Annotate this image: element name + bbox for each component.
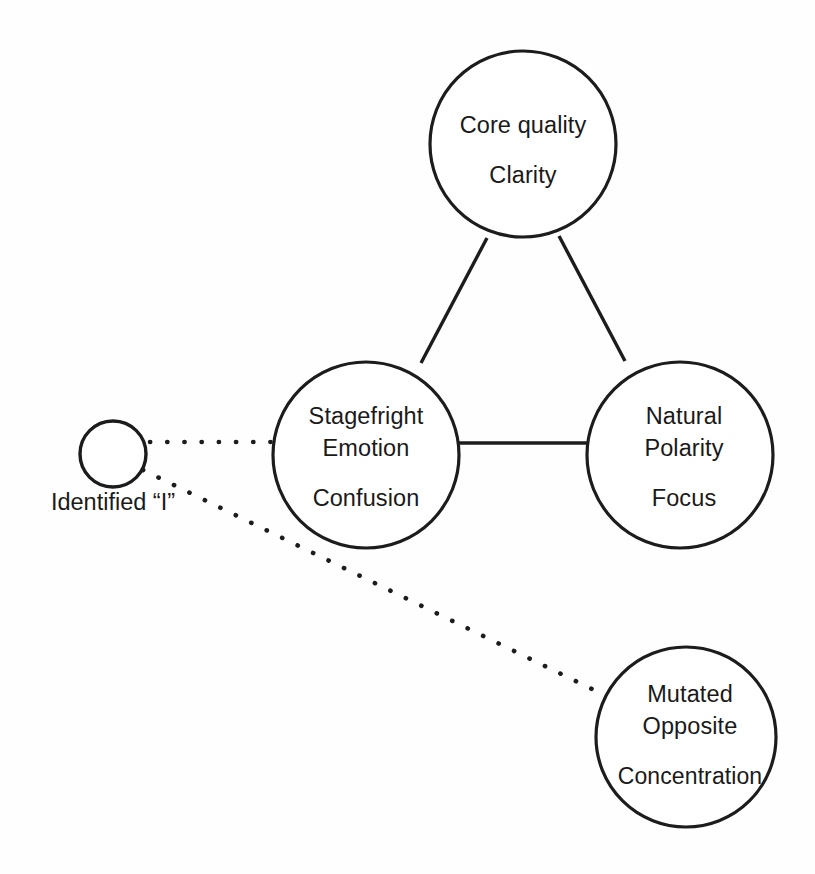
node-core-quality-line2: Clarity <box>489 162 556 188</box>
node-core-quality-line1: Core quality <box>460 112 587 138</box>
node-stagefright-line1: Stagefright <box>309 403 424 429</box>
node-mutated-opposite-line2: Opposite <box>643 713 738 739</box>
relationship-diagram: Core quality Clarity Stagefright Emotion… <box>0 0 815 874</box>
edge-core-quality-to-natural-polarity <box>559 236 625 361</box>
node-stagefright[interactable]: Stagefright Emotion Confusion <box>273 362 459 548</box>
node-identified-i-caption: Identified “I” <box>51 489 175 515</box>
node-core-quality[interactable]: Core quality Clarity <box>430 51 616 237</box>
node-natural-polarity-line1: Natural <box>646 403 722 429</box>
node-mutated-opposite[interactable]: Mutated Opposite Concentration <box>596 647 776 827</box>
node-mutated-opposite-line3: Concentration <box>618 763 763 789</box>
node-identified-i[interactable]: Identified “I” <box>51 421 175 515</box>
node-stagefright-line2: Emotion <box>323 435 410 461</box>
node-mutated-opposite-line1: Mutated <box>647 681 733 707</box>
edge-core-quality-to-stagefright <box>421 238 487 363</box>
node-natural-polarity-line2: Polarity <box>644 435 723 461</box>
node-core-quality-circle[interactable] <box>430 51 616 237</box>
node-stagefright-line3: Confusion <box>313 485 420 511</box>
node-natural-polarity-line3: Focus <box>652 485 717 511</box>
diagram-canvas: Core quality Clarity Stagefright Emotion… <box>0 0 815 874</box>
node-identified-i-circle[interactable] <box>80 421 146 487</box>
node-natural-polarity[interactable]: Natural Polarity Focus <box>587 362 773 548</box>
